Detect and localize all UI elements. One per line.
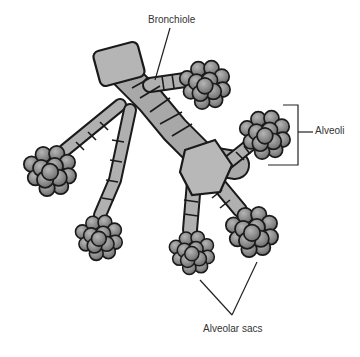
alveolar-sac-top	[180, 61, 230, 110]
bronchiole-label: Bronchiole	[148, 14, 195, 25]
alveolar-sacs-leader-1	[200, 280, 232, 315]
bronchiole-alveoli-diagram	[0, 0, 360, 357]
alveolar-sacs-label: Alveolar sacs	[203, 323, 262, 334]
bronchiole-leader	[155, 28, 170, 80]
alveolar-sac-lower-left	[75, 215, 122, 260]
alveolar-sacs-leader-2	[232, 262, 257, 315]
alveoli-label: Alveoli	[315, 125, 344, 136]
alveolar-sac-bottom	[169, 231, 214, 274]
